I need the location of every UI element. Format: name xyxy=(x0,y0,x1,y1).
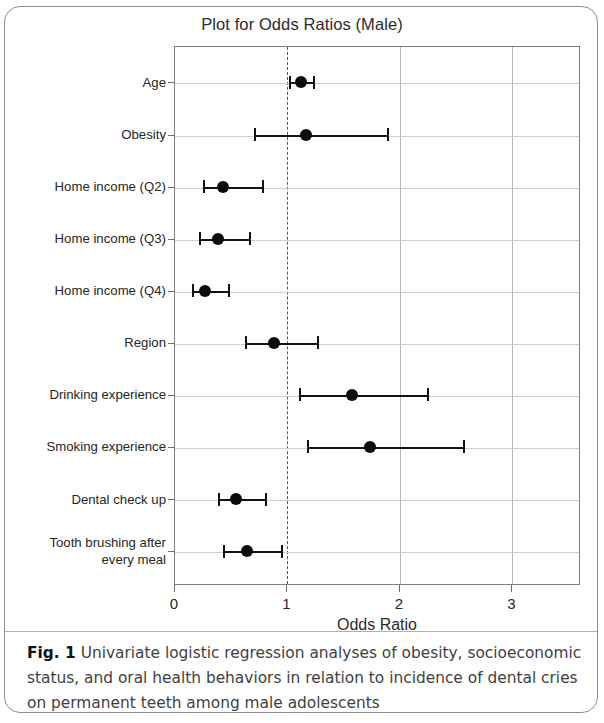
y-axis-tick-label: Home income (Q3) xyxy=(55,230,166,247)
x-axis-tick xyxy=(286,585,287,592)
y-axis-tick xyxy=(168,447,175,448)
x-axis-tick-label: 1 xyxy=(266,595,306,612)
ci-upper-cap xyxy=(281,545,283,558)
y-axis-tick xyxy=(168,239,175,240)
ci-lower-cap xyxy=(192,284,194,297)
odds-ratio-point xyxy=(364,441,376,453)
y-axis-tick xyxy=(168,499,175,500)
ci-lower-cap xyxy=(203,180,205,193)
x-gridline xyxy=(400,47,401,584)
confidence-interval-line xyxy=(254,135,387,137)
ci-lower-cap xyxy=(245,336,247,349)
ci-lower-cap xyxy=(199,232,201,245)
y-axis-tick xyxy=(168,82,175,83)
y-axis-tick-label: Age xyxy=(143,74,166,91)
y-axis-tick xyxy=(168,135,175,136)
y-axis-tick-label: Home income (Q4) xyxy=(55,282,166,299)
y-axis-tick xyxy=(168,187,175,188)
odds-ratio-point xyxy=(268,337,280,349)
ci-lower-cap xyxy=(218,493,220,506)
odds-ratio-point xyxy=(212,233,224,245)
y-axis-tick-label: Home income (Q2) xyxy=(55,178,166,195)
forest-plot: Plot for Odds Ratios (Male) AgeObesityHo… xyxy=(5,7,598,619)
confidence-interval-line xyxy=(299,395,427,397)
figure-caption: Fig. 1 Univariate logistic regression an… xyxy=(27,641,583,713)
ci-upper-cap xyxy=(387,128,389,141)
y-axis-tick xyxy=(168,395,175,396)
y-axis-tick-label: Region xyxy=(124,334,166,351)
reference-line xyxy=(287,47,288,584)
ci-lower-cap xyxy=(299,388,301,401)
x-axis-tick xyxy=(399,585,400,592)
ci-upper-cap xyxy=(262,180,264,193)
x-gridline xyxy=(512,47,513,584)
ci-upper-cap xyxy=(463,440,465,453)
x-axis-tick xyxy=(511,585,512,592)
y-axis-tick xyxy=(168,291,175,292)
odds-ratio-point xyxy=(346,389,358,401)
ci-lower-cap xyxy=(223,545,225,558)
ci-upper-cap xyxy=(317,336,319,349)
ci-lower-cap xyxy=(289,76,291,89)
y-axis-tick-label: Tooth brushing after every meal xyxy=(49,534,166,568)
caption-divider xyxy=(5,631,598,632)
chart-title: Plot for Odds Ratios (Male) xyxy=(5,15,598,34)
ci-upper-cap xyxy=(249,232,251,245)
confidence-interval-line xyxy=(203,187,261,189)
y-axis-tick-label: Obesity xyxy=(121,126,166,143)
figure-caption-text: Univariate logistic regression analyses … xyxy=(27,644,581,712)
y-gridline xyxy=(175,344,579,345)
ci-upper-cap xyxy=(427,388,429,401)
y-gridline xyxy=(175,292,579,293)
y-axis-tick xyxy=(168,343,175,344)
odds-ratio-point xyxy=(300,129,312,141)
y-axis-tick-label: Smoking experience xyxy=(47,438,167,455)
confidence-interval-line xyxy=(245,343,317,345)
ci-upper-cap xyxy=(228,284,230,297)
ci-upper-cap xyxy=(265,493,267,506)
y-axis-tick-label: Dental check up xyxy=(71,491,166,508)
x-axis-tick-label: 3 xyxy=(491,595,531,612)
figure-caption-label: Fig. 1 xyxy=(27,644,76,662)
x-axis-tick xyxy=(174,585,175,592)
ci-lower-cap xyxy=(254,128,256,141)
x-axis-tick-label: 0 xyxy=(154,595,194,612)
figure-card: Plot for Odds Ratios (Male) AgeObesityHo… xyxy=(4,6,598,713)
confidence-interval-line xyxy=(199,239,250,241)
ci-lower-cap xyxy=(307,440,309,453)
confidence-interval-line xyxy=(307,447,463,449)
x-axis-tick-label: 2 xyxy=(379,595,419,612)
y-axis-tick xyxy=(168,551,175,552)
ci-upper-cap xyxy=(313,76,315,89)
y-gridline xyxy=(175,83,579,84)
y-axis-tick-label: Drinking experience xyxy=(49,386,166,403)
odds-ratio-point xyxy=(230,493,242,505)
